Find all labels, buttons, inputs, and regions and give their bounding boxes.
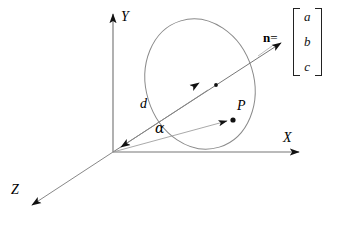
bracket-right-icon [315, 8, 322, 76]
z-axis-label: Z [11, 183, 19, 197]
equals-sign: = [270, 30, 277, 45]
distance-label-d: d [140, 97, 147, 111]
normal-label-leader [258, 46, 272, 56]
distance-vector-d [121, 90, 208, 147]
component-b: b [304, 34, 311, 50]
angle-label-alpha: α [155, 121, 164, 135]
distance-vector-line [121, 90, 208, 147]
z-axis [32, 152, 113, 205]
position-vector-line [113, 121, 227, 152]
position-vector-p [113, 117, 236, 152]
normal-vector-equation: n= [263, 30, 278, 46]
plane-outline [129, 5, 271, 163]
component-a: a [304, 9, 311, 25]
bracket-left-icon [293, 8, 300, 76]
point-label-p: P [237, 99, 246, 113]
plane-ellipse [129, 5, 271, 163]
figure-canvas: Y X Z d α P n= a b c [0, 0, 346, 232]
normal-mid-arrowhead [176, 83, 199, 98]
normal-vector-matrix: a b c [293, 8, 322, 76]
normal-label-leader-line [258, 46, 272, 56]
z-axis-line [32, 152, 113, 205]
foot-point-dot [214, 83, 218, 87]
x-axis-label: X [283, 131, 292, 145]
y-axis-label: Y [121, 10, 129, 24]
point-p-dot [230, 117, 235, 122]
component-c: c [304, 59, 310, 75]
normal-vector-components: a b c [300, 8, 315, 76]
